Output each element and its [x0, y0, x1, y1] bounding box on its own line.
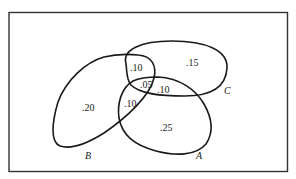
region-a-only: .25: [160, 122, 173, 133]
region-a-b: .10: [124, 98, 137, 109]
set-a-label: A: [195, 150, 203, 161]
venn-diagram: .20 .10 .05 .10 .10 .15 .25 C B A: [0, 0, 296, 179]
region-a-b-c: .05: [140, 79, 153, 90]
region-b-only: .20: [82, 102, 95, 113]
set-b-label: B: [85, 150, 91, 161]
region-c-only: .15: [186, 57, 199, 68]
set-c-label: C: [224, 85, 231, 96]
region-b-c: .10: [130, 62, 143, 73]
region-a-c: .10: [157, 84, 170, 95]
